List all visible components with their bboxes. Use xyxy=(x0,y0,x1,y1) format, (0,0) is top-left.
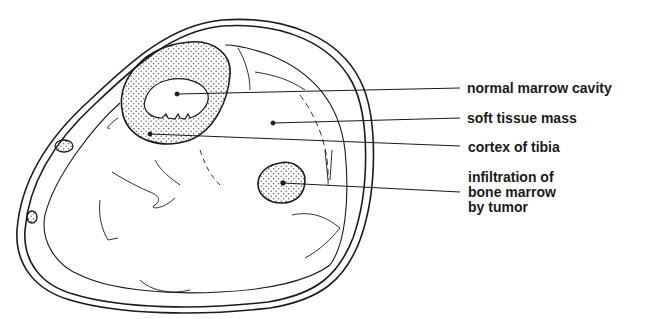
vessel-lower xyxy=(27,211,37,223)
label-cortex-of-tibia: cortex of tibia xyxy=(468,140,560,155)
label-normal-marrow-cavity: normal marrow cavity xyxy=(467,81,612,96)
label-infiltration-line2: bone marrow xyxy=(468,185,556,200)
label-infiltration-line3: by tumor xyxy=(468,200,556,215)
label-infiltration-line1: infiltration of xyxy=(468,170,556,185)
label-infiltration: infiltration of bone marrow by tumor xyxy=(468,170,556,215)
leg-cross-section-diagram xyxy=(0,0,662,319)
vessel-upper xyxy=(55,140,73,152)
label-soft-tissue-mass: soft tissue mass xyxy=(467,111,577,126)
